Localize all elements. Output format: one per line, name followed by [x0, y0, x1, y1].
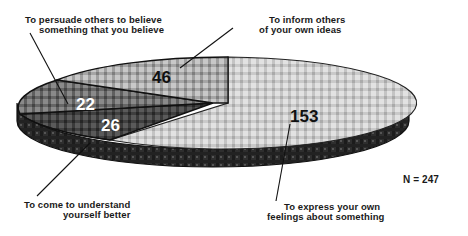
value-express: 153 — [290, 107, 318, 126]
label-persuade: To persuade others to believe something … — [25, 15, 164, 35]
label-express: To express your own feelings about somet… — [267, 202, 384, 222]
value-inform: 46 — [152, 68, 171, 87]
value-understand: 26 — [101, 116, 120, 135]
label-understand: To come to understand yourself better — [24, 200, 130, 220]
label-inform: To inform others of your own ideas — [259, 15, 345, 35]
label-express-line2: feelings about something — [267, 212, 384, 222]
sample-size-label: N = 247 — [403, 175, 439, 185]
value-persuade: 22 — [76, 95, 95, 114]
label-persuade-line2: something that you believe — [25, 25, 164, 35]
label-understand-line2: yourself better — [24, 210, 130, 220]
label-inform-line2: of your own ideas — [259, 25, 345, 35]
